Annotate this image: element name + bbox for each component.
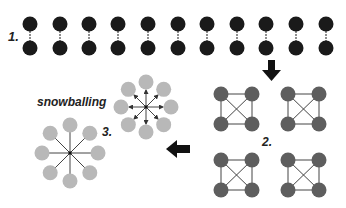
node-pair <box>23 17 38 56</box>
node-pair <box>171 17 186 56</box>
node-pair <box>200 17 215 56</box>
step3-label: 3. <box>102 125 112 139</box>
node-pair <box>289 17 304 56</box>
step1-label: 1. <box>8 29 19 44</box>
node-pair <box>319 17 334 56</box>
star-network <box>114 75 179 140</box>
clique <box>214 87 260 132</box>
node-pair <box>230 17 245 56</box>
node-pair <box>111 17 126 56</box>
node-pair <box>141 17 156 56</box>
down-arrow-icon <box>262 60 281 81</box>
node-pair <box>259 17 274 56</box>
snowballing-label: snowballing <box>37 95 107 109</box>
star-network <box>35 118 106 189</box>
left-arrow-icon <box>166 140 190 158</box>
clique <box>214 153 260 198</box>
node-pair <box>53 17 68 56</box>
clique <box>281 153 327 198</box>
clique <box>281 87 327 132</box>
diagram-svg: 1. 2. 3. snowballing <box>0 0 346 208</box>
step1-pairs <box>23 17 334 56</box>
node-pair <box>82 17 97 56</box>
snowballing-diagram: 1. 2. 3. snowballing <box>0 0 346 208</box>
step2-label: 2. <box>261 135 272 149</box>
